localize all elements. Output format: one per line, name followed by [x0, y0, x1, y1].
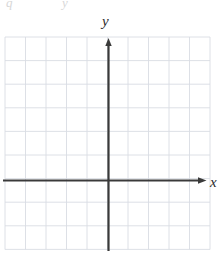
cropped-text-artifact-right: y: [62, 0, 68, 9]
cropped-text-artifact-left: q: [6, 0, 13, 9]
x-axis-label: x: [210, 175, 217, 190]
graph-canvas: [0, 0, 223, 253]
y-axis-label: y: [102, 14, 109, 29]
coordinate-plane-figure: q y: [0, 0, 223, 253]
